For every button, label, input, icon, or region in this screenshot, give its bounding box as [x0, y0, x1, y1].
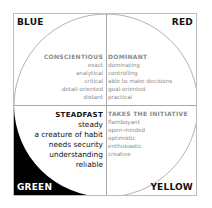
- trait: dominating: [108, 61, 172, 69]
- red-label: RED: [172, 17, 193, 27]
- trait: steady: [34, 120, 103, 130]
- trait: detail-oriented: [44, 85, 103, 93]
- trait: flamboyant: [108, 118, 188, 126]
- green-heading: STEADFAST: [34, 110, 103, 120]
- trait: a creature of habit: [34, 130, 103, 140]
- blue-label: BLUE: [17, 17, 44, 27]
- red-heading: DOMINANT: [108, 53, 172, 61]
- trait: enthusiastic: [108, 142, 188, 150]
- trait: needs security: [34, 140, 103, 150]
- blue-heading: CONSCIENTIOUS: [44, 53, 103, 61]
- horizontal-divider: [14, 105, 196, 106]
- trait: creative: [108, 150, 188, 158]
- yellow-heading: TAKES THE INITIATIVE: [108, 110, 188, 118]
- red-quadrant-text: DOMINANT dominating controlling able to …: [108, 53, 172, 101]
- trait: distant: [44, 93, 103, 101]
- trait: exact: [44, 61, 103, 69]
- trait: practical: [108, 93, 172, 101]
- trait: optimistic: [108, 134, 188, 142]
- trait: analytical: [44, 69, 103, 77]
- blue-quadrant-text: CONSCIENTIOUS exact analytical critical …: [44, 53, 103, 101]
- yellow-quadrant-text: TAKES THE INITIATIVE flamboyant open-min…: [108, 110, 188, 158]
- trait: reliable: [34, 160, 103, 170]
- green-quadrant-text: STEADFAST steady a creature of habit nee…: [34, 110, 103, 170]
- trait: goal-oriented: [108, 85, 172, 93]
- trait: understanding: [34, 150, 103, 160]
- green-label: GREEN: [17, 182, 52, 192]
- trait: open-minded: [108, 126, 188, 134]
- personality-quadrant-diagram: BLUE RED GREEN YELLOW CONSCIENTIOUS exac…: [13, 13, 197, 196]
- trait: controlling: [108, 69, 172, 77]
- trait: able to make decisions: [108, 77, 172, 85]
- trait: critical: [44, 77, 103, 85]
- yellow-label: YELLOW: [150, 182, 193, 192]
